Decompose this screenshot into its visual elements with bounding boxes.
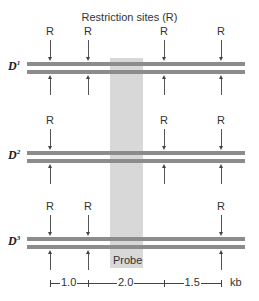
probe-label: Probe [113,254,142,266]
dna-strand-top [27,151,245,155]
restriction-site-label: R [158,25,170,37]
restriction-site-label: R [44,114,56,126]
scale-segment-label: 2.0 [117,276,134,288]
restriction-site-label: R [44,200,56,212]
scale-segment-label: 1.0 [60,276,77,288]
restriction-site-label: R [215,200,227,212]
dna-strand-bottom [27,159,245,163]
site-line-bottom [50,79,51,95]
restriction-site-label: R [44,25,56,37]
site-line-bottom [88,79,89,95]
site-line-top [50,40,51,57]
scale-tick [50,280,51,287]
arrow-down-icon [162,146,166,150]
site-line-top [88,40,89,57]
site-line-bottom [50,168,51,184]
dna-strand-bottom [27,70,245,74]
scale-tick [221,280,222,287]
site-line-top [221,129,222,146]
arrow-down-icon [48,146,52,150]
site-line-bottom [221,168,222,184]
restriction-site-label: R [215,114,227,126]
arrow-down-icon [219,57,223,61]
dna-strand-top [27,237,245,241]
site-line-bottom [221,254,222,270]
site-line-top [50,215,51,232]
site-line-bottom [88,254,89,270]
arrow-down-icon [219,146,223,150]
scale-tick [88,280,89,287]
restriction-site-label: R [158,114,170,126]
site-line-top [221,215,222,232]
arrow-down-icon [48,57,52,61]
arrow-down-icon [162,57,166,61]
scale-segment-label: 1.5 [184,276,201,288]
site-line-top [88,215,89,232]
site-line-top [221,40,222,57]
arrow-down-icon [86,57,90,61]
row-label: D2 [8,148,20,163]
row-label: D3 [8,234,20,249]
arrow-down-icon [86,232,90,236]
row-label: D1 [8,59,20,74]
scale-tick [164,280,165,287]
dna-strand-bottom [27,245,245,249]
site-line-bottom [164,79,165,95]
restriction-site-label: R [82,25,94,37]
site-line-top [164,129,165,146]
site-line-top [164,40,165,57]
restriction-site-label: R [215,25,227,37]
dna-strand-top [27,62,245,66]
diagram-title: Restriction sites (R) [0,11,259,23]
scale-unit-label: kb [229,276,243,288]
site-line-bottom [221,79,222,95]
site-line-bottom [50,254,51,270]
arrow-down-icon [48,232,52,236]
site-line-bottom [164,168,165,184]
arrow-down-icon [219,232,223,236]
restriction-site-label: R [82,200,94,212]
site-line-top [50,129,51,146]
